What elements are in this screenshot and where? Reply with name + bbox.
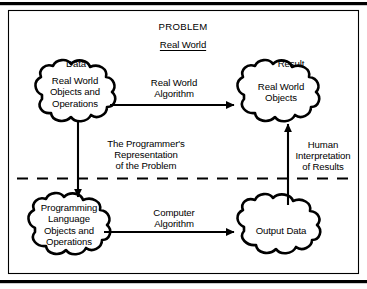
label-data: Data — [66, 58, 86, 69]
cloud-label-real-world-objects-and-operations: Real World Objects and Operations — [50, 75, 100, 109]
cloud-output-data — [237, 194, 320, 253]
figure-subtitle: Real World — [160, 39, 206, 50]
edge-label-programmers-representation: The Programmer's Representation of the P… — [107, 138, 185, 172]
figure-container: PROBLEM Real World Data Result Real Worl… — [0, 0, 367, 289]
edge-label-human-interpretation: Human Interpretation of Results — [295, 139, 350, 173]
cloud-label-programming-language-objects-and-operations: Programming Language Objects and Operati… — [41, 202, 97, 247]
edge-label-real-world-algorithm: Real World Algorithm — [151, 77, 197, 99]
cloud-label-output-data: Output Data — [256, 225, 307, 236]
label-result: Result — [278, 58, 305, 69]
edge-label-computer-algorithm: Computer Algorithm — [153, 207, 194, 229]
cloud-label-real-world-objects: Real World Objects — [258, 81, 304, 104]
figure-title: PROBLEM — [158, 21, 207, 32]
top-rule — [0, 2, 367, 5]
bottom-rule — [0, 280, 367, 283]
